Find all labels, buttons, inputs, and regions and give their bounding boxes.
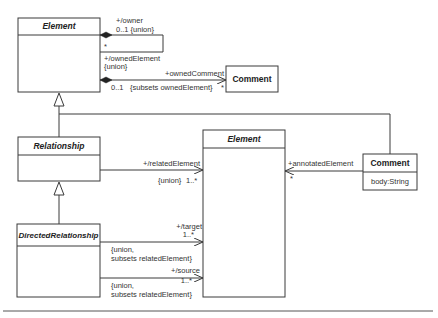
class-comment-top[interactable]: Comment: [226, 66, 278, 92]
class-relationship[interactable]: Relationship: [18, 137, 100, 181]
multiplicity-target: 1..*: [183, 230, 194, 239]
multiplicity-source: 1..*: [181, 276, 192, 285]
constraint-source-line1: {union,: [111, 281, 134, 290]
multiplicity-owner-end: 0..1: [111, 83, 124, 92]
class-box: [203, 130, 285, 297]
class-element-middle[interactable]: Element: [203, 130, 285, 297]
role-source: +/source: [171, 266, 200, 275]
generalization-directed-relationship: [54, 182, 64, 224]
association-owned-comment: +ownedComment 0..1 {subsets ownedElement…: [100, 69, 226, 92]
class-name: Element: [227, 134, 261, 144]
generalization-relationship-element: [54, 93, 64, 137]
class-directed-relationship[interactable]: DirectedRelationship: [17, 224, 100, 297]
generalization-triangle-icon: [54, 182, 64, 195]
role-annotated-element: +annotatedElement: [288, 159, 354, 168]
constraint-owned-element: {union}: [104, 62, 128, 71]
association-owner: +/owner 0..1 {union} * +/ownedElement {u…: [100, 16, 163, 71]
constraint-related-element: {union}: [158, 176, 182, 185]
association-source: +/source 1..* {union, subsets relatedEle…: [100, 266, 203, 299]
association-target: +/target 1..* {union, subsets relatedEle…: [100, 222, 203, 263]
class-element-top[interactable]: Element: [18, 18, 100, 92]
multiplicity-owner: 0..1 {union}: [116, 25, 154, 34]
multiplicity-owned-comment: *: [221, 83, 224, 92]
constraint-target-line1: {union,: [111, 245, 134, 254]
uml-class-diagram: Element +/owner 0..1 {union} * +/ownedEl…: [0, 0, 438, 318]
multiplicity-related-element: 1..*: [186, 176, 197, 185]
role-owner: +/owner: [116, 16, 143, 25]
constraint-source-line2: subsets relatedElement}: [111, 290, 192, 299]
class-name: DirectedRelationship: [18, 231, 98, 240]
class-name: Comment: [370, 158, 409, 168]
generalization-triangle-icon: [54, 93, 64, 106]
constraint-owned-comment: {subsets ownedElement}: [130, 83, 213, 92]
class-attribute: body:String: [371, 177, 409, 186]
class-name: Comment: [232, 74, 271, 84]
multiplicity-owned-element: *: [104, 42, 107, 51]
association-line: [100, 35, 163, 52]
multiplicity-annotated-element: *: [290, 174, 293, 183]
composition-diamond-icon: [100, 32, 112, 38]
role-related-element: +/relatedElement: [143, 159, 201, 168]
class-name: Relationship: [33, 141, 84, 151]
class-comment-right[interactable]: Comment body:String: [363, 154, 417, 190]
class-name: Element: [42, 21, 76, 31]
role-owned-comment: +ownedComment: [165, 69, 225, 78]
constraint-target-line2: subsets relatedElement}: [111, 254, 192, 263]
association-annotated-element: +annotatedElement *: [285, 159, 363, 183]
association-related-element: +/relatedElement {union} 1..*: [100, 159, 203, 185]
